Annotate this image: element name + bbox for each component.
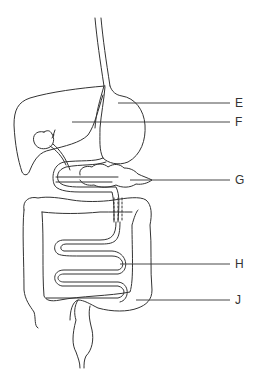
label-e: E xyxy=(235,97,243,109)
liver xyxy=(14,86,105,175)
label-g: G xyxy=(235,174,244,186)
digestive-system-diagram xyxy=(0,0,257,380)
label-h: H xyxy=(235,258,244,270)
rectum xyxy=(73,300,93,368)
oesophagus xyxy=(95,18,110,86)
label-j: J xyxy=(235,294,241,306)
small-intestine xyxy=(46,222,127,302)
label-f: F xyxy=(235,116,242,128)
ileocecal-junction xyxy=(114,198,122,222)
large-intestine xyxy=(23,197,152,328)
pancreas xyxy=(80,164,152,187)
